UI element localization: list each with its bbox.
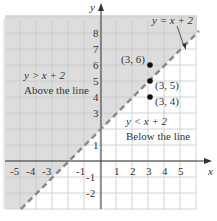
point-3-4 <box>147 94 153 100</box>
y-tick-neg2: -2 <box>86 187 95 199</box>
above-inequality: y > x + 2 <box>23 69 66 81</box>
x-tick-neg3: -3 <box>42 165 52 177</box>
y-axis-arrow-icon <box>98 3 104 11</box>
y-tick-6: 6 <box>93 59 99 71</box>
y-tick-3: 3 <box>93 107 99 119</box>
below-description: Below the line <box>126 130 190 142</box>
x-tick-neg5: -5 <box>10 165 20 177</box>
below-inequality: y < x + 2 <box>125 115 168 127</box>
above-description: Above the line <box>24 84 89 96</box>
y-tick-8: 8 <box>93 27 99 39</box>
x-axis-arrow-icon <box>204 158 212 164</box>
point-label-3-5: (3, 5) <box>155 79 179 92</box>
y-tick-5: 5 <box>93 75 99 87</box>
y-axis-label: y <box>89 1 95 13</box>
point-label-3-6: (3, 6) <box>121 53 145 66</box>
y-tick-1: 1 <box>93 139 99 151</box>
x-tick-1: 1 <box>114 165 120 177</box>
x-tick-5: 5 <box>178 165 184 177</box>
line-equation-label: y = x + 2 <box>151 14 194 26</box>
x-tick-neg1: -1 <box>76 165 85 177</box>
y-tick-7: 7 <box>93 43 99 55</box>
y-tick-neg1: -1 <box>86 171 95 183</box>
point-3-6 <box>147 62 153 68</box>
y-tick-4: 4 <box>93 91 99 103</box>
inequality-graph: y x 8 7 6 5 4 3 1 -1 -2 -5 -4 -3 -1 1 2 … <box>0 0 217 221</box>
x-tick-3: 3 <box>146 165 152 177</box>
x-axis-label: x <box>207 165 213 177</box>
point-3-5 <box>147 78 153 84</box>
x-tick-neg4: -4 <box>26 165 36 177</box>
point-label-3-4: (3, 4) <box>155 95 179 108</box>
x-tick-4: 4 <box>162 165 168 177</box>
x-tick-2: 2 <box>130 165 136 177</box>
